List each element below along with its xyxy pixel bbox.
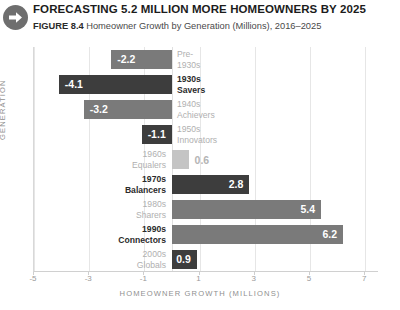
category-label-line2: Equalers	[132, 160, 166, 171]
chart-bar-row: 5.41980sSharers	[34, 197, 378, 222]
chart-bar-row: -1.11950sInnovators	[34, 122, 378, 147]
chart-bar-row: 6.21990sConnectors	[34, 222, 378, 247]
category-label: 1930sSavers	[177, 73, 205, 96]
chart-bar-row: -2.2Pre-1930s	[34, 47, 378, 72]
x-tick-label: 5	[307, 274, 311, 283]
bar[interactable]: 6.2	[172, 225, 343, 244]
category-label-line1: 1930s	[177, 74, 205, 85]
category-label-line2: Balancers	[125, 185, 166, 196]
x-tick-label: -5	[29, 274, 36, 283]
figure-caption: Homeowner Growth by Generation (Millions…	[86, 21, 321, 31]
category-label-line2: Sharers	[136, 210, 166, 221]
category-label: 1980sSharers	[136, 198, 166, 221]
category-label-line2: Achievers	[177, 110, 215, 121]
chart-plot-area: -2.2Pre-1930s-4.11930sSavers-3.21940sAch…	[33, 47, 378, 272]
category-label-line1: Pre-	[177, 49, 200, 60]
category-label: 2000sGlobals	[137, 248, 166, 271]
bar[interactable]: 5.4	[172, 200, 321, 219]
bar-value-label: 6.2	[323, 229, 344, 240]
x-tick-label: -1	[140, 274, 147, 283]
category-label-line1: 1980s	[136, 199, 166, 210]
bar[interactable]: 2.8	[172, 175, 249, 194]
x-axis-title: HOMEOWNER GROWTH (MILLIONS)	[0, 289, 400, 298]
x-tick-label: 3	[252, 274, 256, 283]
category-label: Pre-1930s	[177, 48, 200, 71]
bar-value-label: 0.6	[189, 150, 210, 169]
category-label: 1960sEqualers	[132, 148, 166, 171]
chart-bar-row: 0.61960sEqualers	[34, 147, 378, 172]
bar-value-label: 2.8	[229, 179, 250, 190]
category-label-line1: 1940s	[177, 99, 215, 110]
category-label-line2: 1930s	[177, 60, 200, 71]
x-tick-label: 1	[196, 274, 200, 283]
bar-value-label: -1.1	[142, 129, 166, 140]
bar-value-label: -2.2	[111, 54, 135, 65]
category-label-line1: 1960s	[132, 149, 166, 160]
chart-bar-row: -3.21940sAchievers	[34, 97, 378, 122]
x-tick-label: 7	[362, 274, 366, 283]
bar-value-label: 5.4	[300, 204, 321, 215]
chart-bar-row: -4.11930sSavers	[34, 72, 378, 97]
bar-value-label: 0.9	[176, 254, 197, 265]
category-label: 1950sInnovators	[177, 123, 217, 146]
bar[interactable]	[172, 150, 189, 169]
category-label-line1: 1970s	[125, 174, 166, 185]
category-label-line1: 1950s	[177, 124, 217, 135]
category-label-line2: Innovators	[177, 135, 217, 146]
bar-value-label: -4.1	[59, 79, 83, 90]
chart-header: FORECASTING 5.2 MILLION MORE HOMEOWNERS …	[0, 0, 400, 40]
bar[interactable]: -4.1	[59, 75, 172, 94]
bar-value-label: -3.2	[84, 104, 108, 115]
page-title: FORECASTING 5.2 MILLION MORE HOMEOWNERS …	[33, 3, 366, 15]
arrow-right-circle-icon	[3, 5, 28, 30]
bar[interactable]: 0.9	[172, 250, 197, 269]
category-label-line2: Globals	[137, 260, 166, 271]
category-label-line2: Connectors	[118, 235, 166, 246]
bar[interactable]: -2.2	[111, 50, 172, 69]
bar[interactable]: -3.2	[84, 100, 172, 119]
y-axis-title: GENERATION	[0, 79, 7, 140]
figure-subtitle: FIGURE 8.4 Homeowner Growth by Generatio…	[33, 21, 321, 31]
category-label: 1970sBalancers	[125, 173, 166, 196]
figure-number: FIGURE 8.4	[33, 21, 84, 31]
category-label-line2: Savers	[177, 85, 205, 96]
category-label: 1940sAchievers	[177, 98, 215, 121]
x-tick-label: -3	[85, 274, 92, 283]
category-label-line1: 1990s	[118, 224, 166, 235]
chart-bar-row: 0.92000sGlobals	[34, 247, 378, 272]
chart-bar-row: 2.81970sBalancers	[34, 172, 378, 197]
category-label-line1: 2000s	[137, 249, 166, 260]
bar[interactable]: -1.1	[142, 125, 172, 144]
category-label: 1990sConnectors	[118, 223, 166, 246]
